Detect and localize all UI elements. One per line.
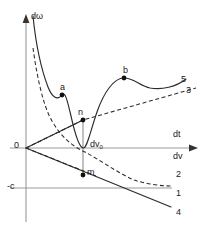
point-label-b: b — [123, 66, 128, 75]
curve-5-main — [33, 16, 186, 148]
point-marker-a — [60, 93, 65, 98]
curve-3-line — [26, 88, 196, 148]
x-axis-arrow-icon — [189, 145, 198, 152]
x-axis-label-dv: dv — [173, 152, 183, 161]
y-axis-label: dω — [31, 12, 43, 21]
dv0-label-subscript: 0 — [100, 144, 103, 150]
dv0-label: dv0 — [90, 140, 103, 149]
curve-label-5: 5 — [181, 75, 186, 84]
origin-label: 0 — [14, 141, 19, 150]
curve-label-4: 4 — [176, 208, 181, 217]
curve-4-line — [26, 148, 171, 207]
y-axis-arrow-icon — [23, 14, 30, 23]
curve-label-1: 1 — [176, 189, 181, 198]
x-axis-label-dt: dt — [173, 130, 181, 139]
figure-container: dω dt dv 0 -c dv0 a b n m 5 3 2 1 4 — [0, 0, 212, 231]
point-marker-b — [122, 76, 127, 81]
point-marker-n — [81, 118, 86, 123]
curve-label-2: 2 — [176, 170, 181, 179]
point-marker-m — [81, 173, 86, 178]
point-label-m: m — [87, 168, 95, 177]
dv0-label-base: dv — [90, 139, 100, 149]
point-label-n: n — [78, 108, 83, 117]
curve-2-dashed — [33, 48, 172, 186]
curve-label-3: 3 — [186, 86, 191, 95]
point-label-a: a — [60, 83, 65, 92]
minus-c-label: -c — [7, 182, 15, 191]
